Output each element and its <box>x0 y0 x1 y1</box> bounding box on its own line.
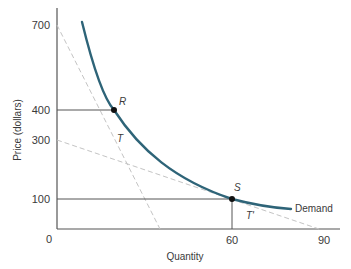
x-axis-label: Quantity <box>166 251 203 262</box>
y-tick-300: 300 <box>32 134 50 146</box>
y-tick-100: 100 <box>32 193 50 205</box>
tangent-tprime-label: T' <box>246 210 255 221</box>
x-tick-90: 90 <box>318 234 330 246</box>
tangent-t-label: T <box>117 133 124 144</box>
demand-curve <box>82 22 291 209</box>
point-s-label: S <box>234 182 241 193</box>
point-s-marker <box>229 196 235 202</box>
point-r-label: R <box>119 96 126 107</box>
y-tick-0: 0 <box>46 233 52 245</box>
y-tick-400: 400 <box>32 104 50 116</box>
demand-label: Demand <box>295 203 333 214</box>
demand-elasticity-chart: 700 400 300 100 0 60 90 Quantity Price (… <box>0 0 351 269</box>
tangent-line-s <box>57 140 319 229</box>
point-r-marker <box>111 107 117 113</box>
y-axis-label: Price (dollars) <box>12 99 23 161</box>
tangent-line-r <box>57 25 160 229</box>
y-tick-700: 700 <box>32 19 50 31</box>
x-tick-60: 60 <box>226 234 238 246</box>
